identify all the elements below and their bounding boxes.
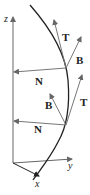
binormal-label-upper: B (76, 55, 83, 66)
z-axis-label: z (4, 14, 8, 24)
binormal-label-lower: B (45, 100, 52, 111)
binormal-vector-lower (50, 94, 66, 125)
tangent-vector-upper (54, 20, 66, 68)
normal-vector-upper (14, 68, 66, 72)
diagram-canvas (0, 0, 90, 195)
normal-label-upper: N (35, 76, 43, 87)
x-axis-label: x (35, 179, 39, 189)
tangent-label-upper: T (62, 32, 69, 43)
x-axis (13, 163, 39, 176)
tangent-label-lower: T (80, 97, 87, 108)
y-axis (13, 159, 72, 163)
normal-label-lower: N (34, 124, 42, 135)
y-axis-label: y (68, 161, 72, 171)
